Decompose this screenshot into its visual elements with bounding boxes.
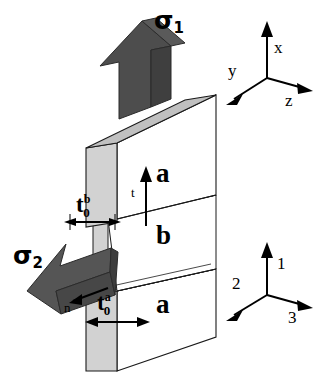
t0b-subscript: 0 <box>83 205 90 220</box>
xyz-triad-lines <box>226 21 313 105</box>
axis-label-z: z <box>285 92 293 109</box>
axis-label-2: 2 <box>232 275 241 292</box>
sigma1-symbol: σ <box>154 6 173 35</box>
specimen-diagram <box>0 0 331 391</box>
sigma2-label: σ2 <box>13 243 43 271</box>
t0b-superscript: b <box>84 192 91 206</box>
top-slab-side-face <box>86 143 117 227</box>
figure-root: σ1 σ2 a b a tb0 ta0 t n x y z 1 2 3 <box>0 0 331 391</box>
layer-label-b-middle: b <box>156 222 171 249</box>
t0a-superscript: a <box>105 290 111 304</box>
sigma1-label: σ1 <box>154 8 184 36</box>
dimension-label-t0b: tb0 <box>76 192 90 221</box>
thickness-direction-label: t <box>131 186 135 199</box>
axis-label-x: x <box>274 39 283 56</box>
axis-label-3: 3 <box>288 309 297 326</box>
sigma1-arrow-depth-face <box>151 46 171 107</box>
t0a-subscript: 0 <box>104 303 111 318</box>
normal-vector-label: n <box>64 301 71 314</box>
layer-label-a-bottom: a <box>156 291 170 318</box>
dimension-label-t0a: ta0 <box>97 290 110 319</box>
sigma1-subscript: 1 <box>173 19 183 37</box>
sigma2-symbol: σ <box>13 241 32 270</box>
axis-label-y: y <box>228 62 237 79</box>
axis-label-1: 1 <box>277 255 286 272</box>
sigma2-subscript: 2 <box>32 254 42 272</box>
layer-label-a-top: a <box>156 160 170 187</box>
